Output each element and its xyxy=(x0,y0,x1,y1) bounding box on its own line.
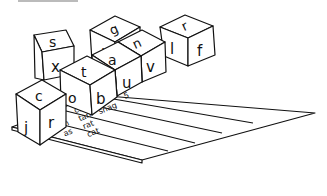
die-r-l-f: r l f xyxy=(160,15,215,66)
die-face-letter: b xyxy=(96,90,106,108)
dice-and-chart-illustration: 1 a 2 at an as 3 can tan rat cat 4 scat … xyxy=(0,0,327,196)
die-face-letter: l xyxy=(170,40,174,58)
die-face-letter: x xyxy=(51,58,60,76)
die-face-letter: c xyxy=(35,88,43,104)
die-face-letter: f xyxy=(197,42,203,60)
die-face-letter: s xyxy=(49,34,56,50)
cropped-header-text xyxy=(18,0,78,2)
die-face-letter: a xyxy=(108,52,117,68)
die-face-letter: v xyxy=(146,58,155,76)
die-face-letter: t xyxy=(81,64,87,80)
die-face-letter: r xyxy=(48,114,55,132)
die-face-letter: o xyxy=(68,90,77,106)
die-face-letter: j xyxy=(23,119,28,137)
die-face-letter: u xyxy=(122,74,132,92)
